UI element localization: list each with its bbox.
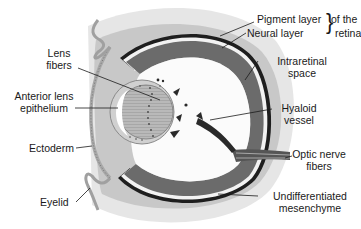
label-retina: retina	[335, 27, 361, 39]
label-optic-nerve-line1: Optic nerve	[284, 148, 354, 160]
label-ectoderm: Ectoderm	[29, 142, 74, 154]
label-mesenchyme-line2: mesenchyme	[262, 202, 358, 214]
label-anterior-lens-line1: Anterior lens	[6, 90, 82, 102]
label-optic-nerve-line2: fibers	[284, 160, 354, 172]
label-lens-fibers-line2: fibers	[36, 59, 82, 71]
label-lens-fibers-line1: Lens	[36, 47, 82, 59]
label-of-the: of the	[331, 13, 357, 25]
label-neural-layer: Neural layer	[247, 27, 304, 39]
label-anterior-lens-epithelium: Anterior lens epithelium	[6, 90, 82, 114]
label-lens-fibers: Lens fibers	[36, 47, 82, 71]
label-intraretinal-line1: Intraretinal	[262, 55, 342, 67]
label-mesenchyme-line1: Undifferentiated	[262, 190, 358, 202]
lens-fibers	[119, 85, 173, 139]
label-undifferentiated-mesenchyme: Undifferentiated mesenchyme	[262, 190, 358, 214]
label-anterior-lens-line2: epithelium	[6, 102, 82, 114]
label-optic-nerve-fibers: Optic nerve fibers	[284, 148, 354, 172]
label-hyaloid-vessel: Hyaloid vessel	[268, 102, 330, 126]
label-hyaloid-line2: vessel	[268, 114, 330, 126]
label-intraretinal-line2: space	[262, 67, 342, 79]
label-intraretinal: Intraretinal space	[262, 55, 342, 79]
label-pigment-layer: Pigment layer	[257, 13, 321, 25]
label-hyaloid-line1: Hyaloid	[268, 102, 330, 114]
label-eyelid: Eyelid	[40, 196, 69, 208]
